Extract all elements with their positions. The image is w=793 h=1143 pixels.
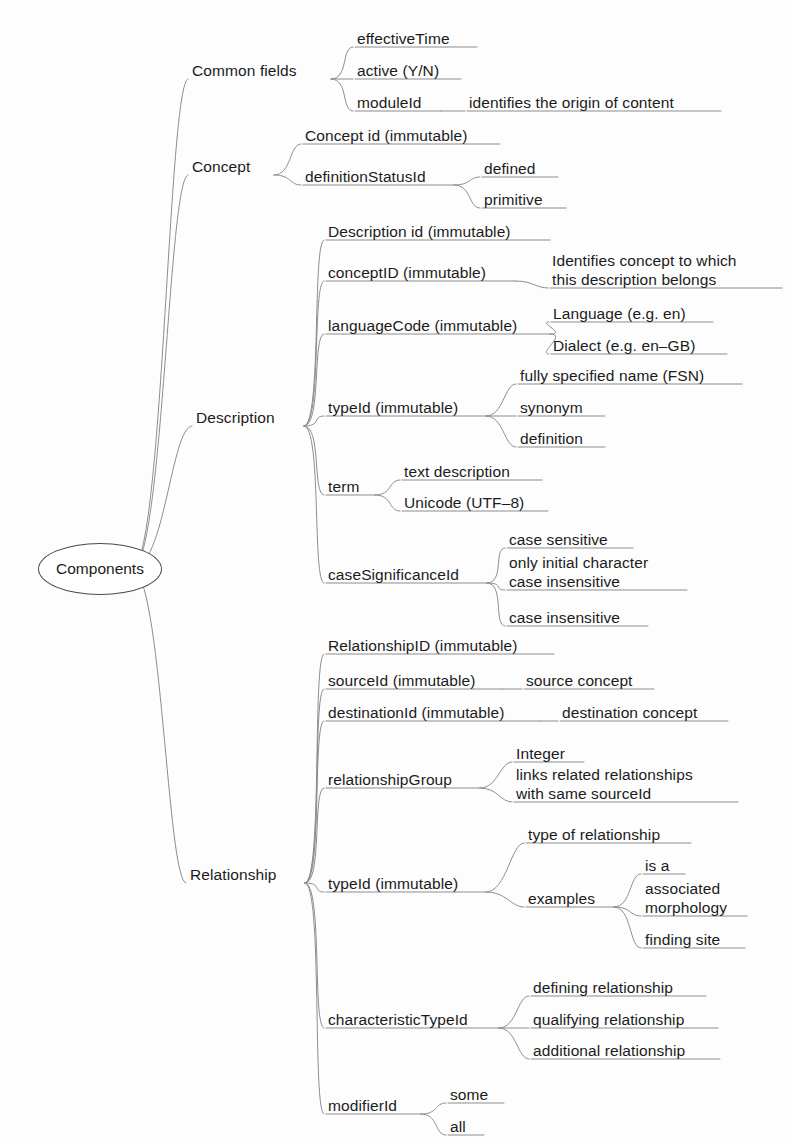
node-associated-morphology[interactable]: associatedmorphology	[645, 879, 727, 917]
node-active-yn[interactable]: active (Y/N)	[357, 61, 439, 80]
node-label: links related relationships	[516, 765, 693, 784]
node-source-concept[interactable]: source concept	[526, 671, 633, 690]
connector	[305, 689, 324, 883]
node-is-a[interactable]: is a	[645, 856, 670, 875]
connector	[487, 548, 505, 583]
connector	[486, 843, 524, 892]
connector	[331, 79, 353, 111]
connector	[487, 583, 505, 590]
connector	[304, 281, 324, 426]
node-only-initial-character[interactable]: only initial charactercase insensitive	[509, 553, 648, 591]
connector	[274, 144, 301, 175]
node-characteristic-type-id[interactable]: characteristicTypeId	[328, 1010, 468, 1029]
node-label: primitive	[484, 190, 543, 209]
node-defining-relationship[interactable]: defining relationship	[533, 978, 673, 997]
node-some[interactable]: some	[450, 1085, 488, 1104]
connector	[132, 569, 186, 883]
node-label: effectiveTime	[357, 29, 450, 48]
node-label: case insensitive	[509, 572, 648, 591]
node-modifier-id[interactable]: modifierId	[328, 1096, 397, 1115]
node-common-fields[interactable]: Common fields	[192, 61, 297, 80]
node-additional-relationship[interactable]: additional relationship	[533, 1041, 685, 1060]
connector	[487, 583, 505, 626]
node-language-code[interactable]: languageCode (immutable)	[328, 316, 517, 335]
node-all[interactable]: all	[450, 1117, 466, 1136]
node-fsn[interactable]: fully specified name (FSN)	[520, 366, 704, 385]
node-case-significance-id[interactable]: caseSignificanceId	[328, 565, 459, 584]
node-relationship-group[interactable]: relationshipGroup	[328, 770, 452, 789]
connector	[515, 281, 548, 288]
node-type-id-2[interactable]: typeId (immutable)	[328, 874, 458, 893]
node-description[interactable]: Description	[196, 408, 275, 427]
node-case-insensitive[interactable]: case insensitive	[509, 608, 620, 627]
node-label: source concept	[526, 671, 633, 690]
connector	[421, 1114, 446, 1135]
node-label: Identifies concept to which	[552, 251, 737, 270]
node-label: associated	[645, 879, 727, 898]
connector	[375, 495, 400, 511]
node-effective-time[interactable]: effectiveTime	[357, 29, 450, 48]
node-unicode-utf8[interactable]: Unicode (UTF–8)	[404, 493, 524, 512]
node-type-of-relationship[interactable]: type of relationship	[528, 825, 660, 844]
node-label: identifies the origin of content	[469, 93, 674, 112]
node-identifies-origin[interactable]: identifies the origin of content	[469, 93, 674, 112]
node-text-description[interactable]: text description	[404, 462, 510, 481]
node-relationship-id[interactable]: RelationshipID (immutable)	[328, 636, 518, 655]
connector	[304, 426, 324, 495]
node-examples[interactable]: examples	[528, 889, 595, 908]
connector	[421, 1103, 446, 1114]
node-label: sourceId (immutable)	[328, 671, 476, 690]
node-label: Relationship	[190, 865, 277, 884]
root-node-label: Components	[56, 560, 144, 578]
node-synonym[interactable]: synonym	[520, 398, 583, 417]
node-label: typeId (immutable)	[328, 398, 458, 417]
node-source-id[interactable]: sourceId (immutable)	[328, 671, 476, 690]
node-language-en[interactable]: Language (e.g. en)	[553, 304, 686, 323]
node-label: defining relationship	[533, 978, 673, 997]
node-label: Unicode (UTF–8)	[404, 493, 524, 512]
node-label: additional relationship	[533, 1041, 685, 1060]
connector	[304, 416, 324, 426]
connector	[486, 892, 524, 907]
connector	[331, 47, 353, 79]
node-defined[interactable]: defined	[484, 159, 536, 178]
node-primitive[interactable]: primitive	[484, 190, 543, 209]
node-label: morphology	[645, 898, 727, 917]
node-links-related[interactable]: links related relationshipswith same sou…	[516, 765, 693, 803]
node-label: modifierId	[328, 1096, 397, 1115]
node-dialect-engb[interactable]: Dialect (e.g. en–GB)	[553, 336, 695, 355]
node-destination-id[interactable]: destinationId (immutable)	[328, 703, 505, 722]
node-identifies-concept[interactable]: Identifies concept to whichthis descript…	[552, 251, 737, 289]
node-label: destination concept	[562, 703, 697, 722]
node-concept[interactable]: Concept	[192, 157, 250, 176]
node-label: Concept	[192, 157, 250, 176]
connector	[305, 883, 324, 892]
connector	[486, 416, 516, 447]
node-label: this description belongs	[552, 270, 737, 289]
node-concept-id[interactable]: Concept id (immutable)	[305, 126, 467, 145]
node-integer[interactable]: Integer	[516, 744, 565, 763]
node-label: conceptID (immutable)	[328, 263, 486, 282]
connector	[132, 79, 188, 569]
node-qualifying-relationship[interactable]: qualifying relationship	[533, 1010, 684, 1029]
node-definition-status-id[interactable]: definitionStatusId	[305, 167, 426, 186]
node-finding-site[interactable]: finding site	[645, 930, 720, 949]
connector	[375, 480, 400, 495]
node-definition[interactable]: definition	[520, 429, 583, 448]
node-module-id[interactable]: moduleId	[357, 93, 422, 112]
node-relationship[interactable]: Relationship	[190, 865, 277, 884]
mind-map-canvas: Components Common fieldseffectiveTimeact…	[0, 0, 793, 1143]
node-description-id[interactable]: Description id (immutable)	[328, 222, 511, 241]
connector	[499, 996, 529, 1028]
node-concept-id-2[interactable]: conceptID (immutable)	[328, 263, 486, 282]
node-type-id[interactable]: typeId (immutable)	[328, 398, 458, 417]
node-label: Common fields	[192, 61, 297, 80]
node-term[interactable]: term	[328, 477, 359, 496]
root-node[interactable]: Components	[38, 543, 162, 595]
connector	[480, 788, 512, 802]
node-case-sensitive[interactable]: case sensitive	[509, 530, 608, 549]
node-destination-concept[interactable]: destination concept	[562, 703, 697, 722]
connector	[305, 788, 324, 883]
connector	[454, 177, 480, 185]
connector	[132, 175, 188, 569]
